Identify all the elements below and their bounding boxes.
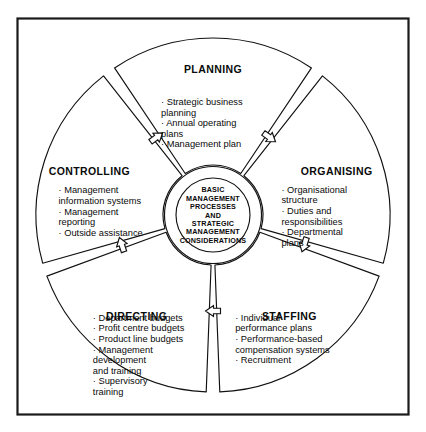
segment-bullet-line: development: [93, 355, 147, 365]
segment-title-planning: PLANNING: [184, 63, 242, 75]
segment-bullet-line: performance plans: [235, 323, 312, 333]
diagram-canvas: BASICMANAGEMENTPROCESSESANDSTRATEGICMANA…: [0, 0, 426, 432]
segment-title-controlling: CONTROLLING: [49, 165, 130, 177]
segment-bullet-line: · Management: [58, 185, 118, 195]
segment-bullet-line: · Performance-based: [235, 334, 322, 344]
segment-bullet-line: · Strategic business: [161, 97, 243, 107]
segment-bullet-line: plans: [281, 238, 304, 248]
segment-bullet-line: · Recruitment: [235, 355, 291, 365]
segment-bullet-line: · Supervisory: [93, 376, 148, 386]
segment-title-organising: ORGANISING: [301, 165, 373, 177]
segment-bullet-line: · Departmental: [281, 227, 343, 237]
segment-bullet-line: · Profit centre budgets: [93, 323, 185, 333]
segment-bullet-line: information systems: [58, 196, 141, 206]
segment-bullet-line: · Organisational: [281, 185, 347, 195]
segment-bullet-line: training: [93, 387, 124, 397]
management-cycle-diagram: BASICMANAGEMENTPROCESSESANDSTRATEGICMANA…: [0, 0, 426, 432]
segment-bullet-line: compensation systems: [235, 345, 330, 355]
segment-bullet-line: · Annual operating: [161, 118, 236, 128]
segment-bullet-line: reporting: [58, 217, 95, 227]
segment-bullet-line: · Department budgets: [93, 313, 183, 323]
segment-bullet-line: planning: [161, 108, 196, 118]
hub-text-line: CONSIDERATIONS: [180, 236, 247, 245]
segment-bullet-line: responsibilities: [281, 217, 342, 227]
segment-bullet-line: · Management: [58, 207, 118, 217]
segment-bullet-line: plans: [161, 129, 184, 139]
segment-bullet-line: · Management: [93, 345, 153, 355]
segment-bullet-line: and training: [93, 366, 142, 376]
segment-bullet-line: structure: [281, 195, 317, 205]
hub-group: BASICMANAGEMENTPROCESSESANDSTRATEGICMANA…: [165, 167, 262, 264]
segment-bullet-line: · Product line budgets: [93, 334, 184, 344]
segment-bullet-line: · Management plan: [161, 139, 241, 149]
segment-bullet-line: · Individual: [235, 313, 280, 323]
segment-bullet-line: · Outside assistance: [58, 228, 142, 238]
segment-bullet-line: · Duties and: [281, 206, 331, 216]
